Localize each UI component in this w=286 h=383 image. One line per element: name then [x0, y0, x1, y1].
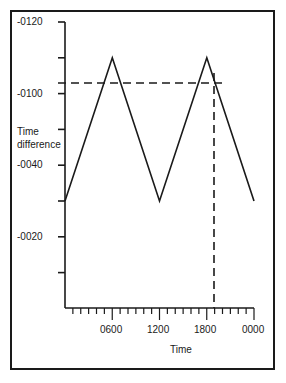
- x-tick-label: 1200: [147, 325, 169, 335]
- y-axis-title-line1: Time: [17, 127, 39, 137]
- x-tick-label: 0600: [100, 325, 122, 335]
- y-tick-label: -0100: [17, 89, 43, 99]
- y-tick-label: -0120: [17, 17, 43, 27]
- y-tick-label: -0040: [17, 160, 43, 170]
- y-tick-label: -0020: [17, 232, 43, 242]
- x-axis-title: Time: [170, 345, 192, 355]
- x-tick-label: 1800: [194, 325, 216, 335]
- time-difference-line: [65, 58, 254, 201]
- x-axis-ticks: [73, 308, 254, 320]
- x-tick-label: 0000: [242, 325, 264, 335]
- y-axis-title-line2: difference: [17, 140, 61, 150]
